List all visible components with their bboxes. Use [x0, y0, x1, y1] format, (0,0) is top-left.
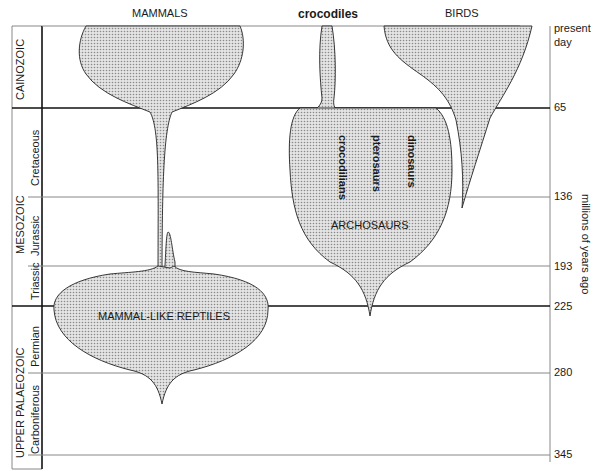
- period-permian: Permian: [29, 326, 41, 367]
- period-jurassic: Jurassic: [29, 216, 41, 256]
- label-mammal-like-reptiles: MAMMAL-LIKE REPTILES: [98, 310, 230, 322]
- tick-225: 225: [554, 300, 572, 312]
- crocodiles-shape: [312, 26, 338, 112]
- era-upper-palaeozoic: UPPER PALAEOZOIC: [14, 348, 26, 458]
- phylogeny-diagram: [0, 0, 598, 476]
- header-crocodiles: crocodiles: [298, 7, 358, 21]
- tick-345: 345: [554, 448, 572, 460]
- era-mesozoic: MESOZOIC: [14, 195, 26, 254]
- tick-65: 65: [554, 101, 566, 113]
- period-triassic: Triassic: [29, 263, 41, 300]
- label-crocodilians: crocodilians: [337, 135, 349, 200]
- tick-136: 136: [554, 190, 572, 202]
- header-birds: BIRDS: [445, 7, 479, 19]
- header-mammals: MAMMALS: [132, 7, 188, 19]
- axis-label: millions of years ago: [580, 194, 592, 294]
- label-archosaurs: ARCHOSAURS: [331, 219, 409, 231]
- label-dinosaurs: dinosaurs: [406, 135, 418, 188]
- label-pterosaurs: pterosaurs: [371, 135, 383, 192]
- tick-present-2: day: [554, 36, 572, 48]
- period-carboniferous: Carboniferous: [29, 385, 41, 454]
- era-cainozoic: CAINOZOIC: [14, 39, 26, 100]
- mammal-like-reptiles-shape: [54, 266, 268, 404]
- mammals-shape: [79, 26, 243, 284]
- tick-present-1: present: [554, 22, 591, 34]
- tick-193: 193: [554, 260, 572, 272]
- period-cretaceous: Cretaceous: [29, 130, 41, 186]
- tick-280: 280: [554, 366, 572, 378]
